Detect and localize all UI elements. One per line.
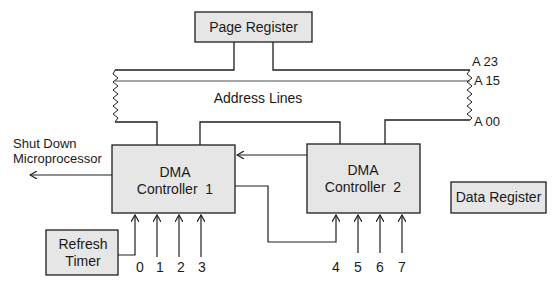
data-register-label: Data Register — [456, 189, 542, 205]
a15-label: A 15 — [474, 73, 500, 88]
dma2-channel-arrows — [358, 215, 402, 253]
dma1-label-line2: Controller 1 — [137, 181, 213, 197]
channel-1-label: 1 — [156, 259, 164, 275]
dma-diagram: Page Register Address Lines A 23 A 15 A … — [0, 0, 557, 285]
dma2-label-line1: DMA — [347, 162, 379, 178]
page-register-label: Page Register — [209, 19, 298, 35]
right-bus-break-icon — [467, 70, 472, 120]
channel-2-label: 2 — [177, 259, 185, 275]
address-lines-label: Address Lines — [214, 90, 303, 106]
shutdown-label-line2: Microprocessor — [13, 151, 103, 166]
refresh-label-line2: Timer — [65, 253, 101, 269]
channel-4-label: 4 — [332, 259, 340, 275]
dma-controller-1-block: DMA Controller 1 — [112, 145, 235, 213]
dma1-label-line1: DMA — [159, 164, 191, 180]
refresh-timer-block: Refresh Timer — [46, 230, 118, 275]
a00-label: A 00 — [474, 114, 500, 129]
left-bus-break-icon — [113, 70, 118, 122]
channel-7-label: 7 — [398, 259, 406, 275]
channel-3-label: 3 — [198, 259, 206, 275]
dma2-label-line2: Controller 2 — [325, 179, 401, 195]
a23-label: A 23 — [472, 54, 498, 69]
channel-5-label: 5 — [354, 259, 362, 275]
shutdown-label-line1: Shut Down — [13, 136, 77, 151]
data-register-block: Data Register — [451, 182, 546, 213]
refresh-to-channel0-arrow-icon — [118, 215, 135, 255]
dma1-channel-arrows — [157, 215, 201, 257]
refresh-label-line1: Refresh — [58, 236, 107, 252]
page-register-block: Page Register — [195, 12, 312, 42]
channel-6-label: 6 — [376, 259, 384, 275]
channel-0-label: 0 — [136, 259, 144, 275]
dma-controller-2-block: DMA Controller 2 — [307, 144, 420, 213]
